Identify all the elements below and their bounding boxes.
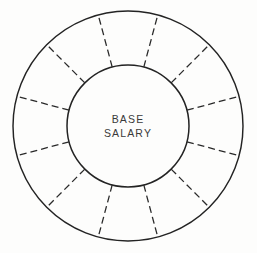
spoke-divider-4 — [187, 142, 239, 156]
spoke-divider-3 — [187, 96, 239, 110]
spoke-divider-8 — [47, 169, 85, 207]
center-label-line-1: BASE — [112, 113, 145, 125]
center-label-line-2: SALARY — [104, 127, 152, 139]
spoke-divider-10 — [17, 96, 69, 110]
spoke-divider-5 — [171, 169, 209, 207]
spoke-divider-2 — [171, 45, 209, 83]
spoke-divider-7 — [98, 185, 112, 237]
spoke-divider-9 — [17, 142, 69, 156]
spoke-divider-12 — [98, 15, 112, 67]
diagram-canvas: BASE SALARY — [0, 0, 257, 253]
spoke-divider-1 — [144, 15, 158, 67]
spoke-divider-11 — [47, 45, 85, 83]
center-label-group: BASE SALARY — [104, 113, 152, 139]
base-salary-wheel-diagram: BASE SALARY — [0, 0, 257, 253]
spoke-divider-6 — [144, 185, 158, 237]
